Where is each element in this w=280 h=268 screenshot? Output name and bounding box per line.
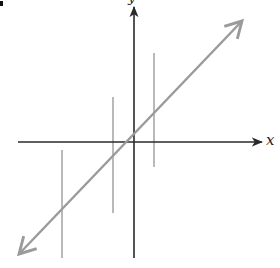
x-axis-label: x [266, 133, 274, 148]
y-axis-label: y [128, 0, 135, 4]
diagonal-line [19, 21, 242, 254]
coordinate-plane-diagram [0, 0, 280, 268]
